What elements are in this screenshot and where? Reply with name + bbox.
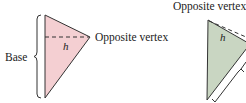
left-figure: Base h Opposite vertex: [5, 15, 168, 98]
left-height-label: h: [63, 40, 69, 52]
right-vertex-label: Opposite vertex: [173, 0, 246, 13]
triangle-height-diagram: Base h Opposite vertex h Opposite vertex: [0, 0, 246, 103]
base-label: Base: [5, 51, 27, 63]
right-figure: h Opposite vertex: [173, 0, 246, 102]
right-triangle: [207, 20, 246, 100]
right-height-label: h: [220, 31, 226, 43]
left-base-brace: [34, 15, 41, 98]
left-vertex-label: Opposite vertex: [95, 31, 168, 44]
left-triangle: [45, 15, 90, 98]
